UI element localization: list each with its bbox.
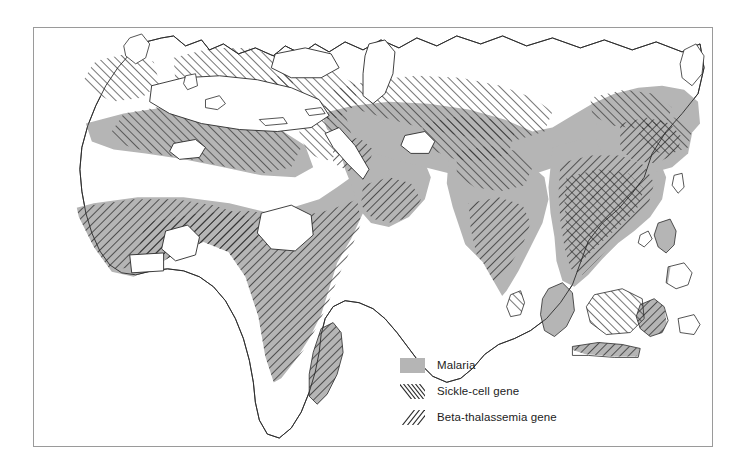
legend-item-beta-thalassemia: Beta-thalassemia gene [400, 409, 557, 426]
backslash-hatch-icon [400, 384, 425, 399]
solid-gray-swatch [400, 358, 425, 373]
palawan-outline [638, 231, 652, 247]
forward-slash-hatch-icon [400, 410, 425, 425]
legend-label-sickle-cell: Sickle-cell gene [437, 384, 519, 399]
legend-item-sickle-cell: Sickle-cell gene [400, 383, 557, 400]
gulf-of-guinea [130, 253, 164, 273]
legend-label-beta-thalassemia: Beta-thalassemia gene [437, 410, 557, 425]
backslash-hatch-swatch [400, 384, 425, 399]
legend-item-malaria: Malaria [400, 357, 557, 374]
figure-page: Malaria Sickle-cell gene [0, 0, 742, 472]
map-legend: Malaria Sickle-cell gene [400, 357, 557, 426]
world-map [34, 28, 712, 446]
map-frame [33, 27, 713, 447]
new-guinea-edge-outline [678, 315, 700, 335]
taiwan-outline [672, 173, 684, 193]
legend-label-malaria: Malaria [437, 358, 475, 373]
forward-slash-hatch-swatch [400, 410, 425, 425]
philippines-outline-south [666, 263, 692, 289]
